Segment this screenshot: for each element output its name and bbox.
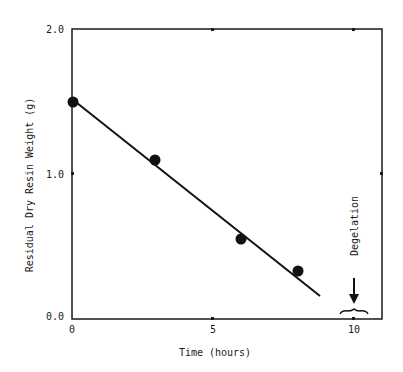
data-point	[150, 155, 161, 166]
data-point	[236, 234, 247, 245]
brace-icon	[340, 309, 368, 314]
y-tick-1: 1.0	[46, 169, 64, 180]
x-tick-0: 0	[69, 324, 75, 335]
chart: 2.0 1.0 0.0 0 5 10 Time (hours) Residual…	[0, 0, 403, 372]
x-axis-label: Time (hours)	[179, 347, 251, 358]
y-tick-2: 2.0	[46, 24, 64, 35]
data-point	[68, 97, 79, 108]
y-axis-label: Residual Dry Resin Weight (g)	[24, 98, 35, 273]
data-point	[293, 266, 304, 277]
plot-frame	[72, 29, 382, 319]
tick-marks	[71, 28, 383, 320]
down-arrow-icon	[349, 278, 359, 304]
y-tick-0: 0.0	[46, 311, 64, 322]
x-tick-5: 5	[210, 324, 216, 335]
degelation-label: Degelation	[349, 196, 360, 256]
x-tick-10: 10	[348, 324, 360, 335]
fit-line	[72, 99, 320, 296]
